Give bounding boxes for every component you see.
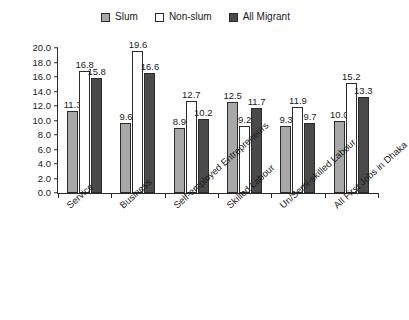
y-axis-tick: 2.0 <box>27 174 58 184</box>
y-axis-tick-label: 0.0 <box>27 188 51 198</box>
x-axis-tick-mark <box>111 193 112 198</box>
y-axis-tick-label: 14.0 <box>27 87 51 97</box>
y-axis-tick: 0.0 <box>27 188 58 198</box>
y-axis-tick-label: 10.0 <box>27 116 51 126</box>
bar-group: 9.619.616.6 <box>111 48 164 193</box>
x-axis-tick-mark <box>378 193 379 198</box>
bar-value-label: 11.7 <box>248 97 266 107</box>
y-axis-tick: 8.0 <box>27 130 58 140</box>
legend-label: Slum <box>115 12 138 22</box>
square-swatch-icon <box>155 13 164 22</box>
bar-value-label: 10.2 <box>194 108 213 118</box>
bar-value-label: 12.7 <box>182 90 201 100</box>
legend-entry-all-migrant: All Migrant <box>229 12 290 22</box>
y-axis-tick: 18.0 <box>27 58 58 68</box>
legend-entry-non-slum: Non-slum <box>155 12 212 22</box>
y-axis-tick-label: 4.0 <box>27 159 51 169</box>
legend-entry-slum: Slum <box>101 12 138 22</box>
y-axis-tick-label: 2.0 <box>27 174 51 184</box>
y-axis-tick: 14.0 <box>27 87 58 97</box>
y-axis-tick: 10.0 <box>27 116 58 126</box>
bar <box>79 71 90 193</box>
y-axis-tick: 20.0 <box>27 43 58 53</box>
bar-value-label: 16.6 <box>141 62 160 72</box>
bar-value-label: 15.2 <box>342 72 361 82</box>
chart-legend: Slum Non-slum All Migrant <box>0 12 391 22</box>
bar-value-label: 15.8 <box>87 67 106 77</box>
bar <box>120 123 131 193</box>
bar-group: 11.316.815.8 <box>58 48 111 193</box>
y-axis-tick: 16.0 <box>27 72 58 82</box>
y-axis-tick-label: 20.0 <box>27 43 51 53</box>
bar <box>280 126 291 193</box>
x-axis-tick-mark <box>325 193 326 198</box>
square-swatch-icon <box>101 13 110 22</box>
x-axis-tick-mark <box>218 193 219 198</box>
x-axis-tick-mark <box>165 193 166 198</box>
bar-value-label: 9.6 <box>119 112 132 122</box>
bar-value-label: 9.3 <box>279 115 292 125</box>
x-axis-tick-mark <box>271 193 272 198</box>
y-axis-tick-label: 8.0 <box>27 130 51 140</box>
bar-value-label: 11.9 <box>289 96 307 106</box>
legend-label: All Migrant <box>243 12 290 22</box>
y-axis-tick-label: 16.0 <box>27 72 51 82</box>
y-axis-tick: 6.0 <box>27 145 58 155</box>
y-axis-tick-label: 6.0 <box>27 145 51 155</box>
legend-label: Non-slum <box>169 12 212 22</box>
y-axis-tick: 12.0 <box>27 101 58 111</box>
bar <box>67 111 78 193</box>
square-swatch-icon <box>229 13 238 22</box>
bar <box>132 51 143 193</box>
bar-value-label: 13.3 <box>354 86 373 96</box>
bar-value-label: 9.7 <box>303 112 316 122</box>
bar-value-label: 8.9 <box>173 117 186 127</box>
bar <box>174 128 185 193</box>
bar-value-label: 12.5 <box>223 91 242 101</box>
y-axis-tick: 4.0 <box>27 159 58 169</box>
y-axis-tick-label: 18.0 <box>27 58 51 68</box>
x-axis-tick-mark <box>58 193 59 198</box>
bar <box>144 73 155 193</box>
y-axis-tick-label: 12.0 <box>27 101 51 111</box>
bar <box>91 78 102 193</box>
bar-value-label: 19.6 <box>129 40 148 50</box>
bar-value-label: 9.2 <box>238 115 251 125</box>
